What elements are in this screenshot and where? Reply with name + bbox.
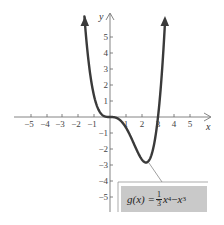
function-curve	[84, 17, 165, 163]
annotation-pointer	[149, 163, 162, 182]
curve-arrow-right-icon	[161, 16, 170, 26]
svg-text:5: 5	[104, 32, 109, 42]
svg-text:−4: −4	[98, 176, 108, 186]
svg-text:2: 2	[140, 119, 145, 129]
function-label-box: g(x) = 1 3 x4 − x3	[121, 186, 207, 212]
svg-text:1: 1	[104, 96, 109, 106]
svg-text:−1: −1	[87, 119, 97, 129]
formula-lhs: g(x) =	[127, 193, 155, 205]
svg-text:−4: −4	[40, 119, 50, 129]
svg-text:−1: −1	[98, 128, 108, 138]
y-axis-label: y	[98, 11, 104, 22]
x-tick-labels: −5 −4 −3 −2 −1 1 2 3 4 5	[24, 119, 193, 129]
svg-text:4: 4	[172, 119, 177, 129]
curve-arrow-left-icon	[81, 16, 90, 26]
x-axis-label: x	[205, 121, 211, 132]
svg-text:3: 3	[104, 64, 109, 74]
formula-exp2: 3	[182, 195, 186, 203]
svg-text:−5: −5	[98, 192, 108, 202]
svg-text:4: 4	[104, 48, 109, 58]
svg-text:2: 2	[104, 80, 109, 90]
formula-fraction: 1 3	[156, 191, 162, 208]
svg-text:−5: −5	[24, 119, 34, 129]
svg-text:−3: −3	[98, 160, 108, 170]
svg-text:−2: −2	[98, 144, 108, 154]
svg-text:−3: −3	[55, 119, 65, 129]
svg-text:5: 5	[188, 119, 193, 129]
svg-text:−2: −2	[71, 119, 81, 129]
